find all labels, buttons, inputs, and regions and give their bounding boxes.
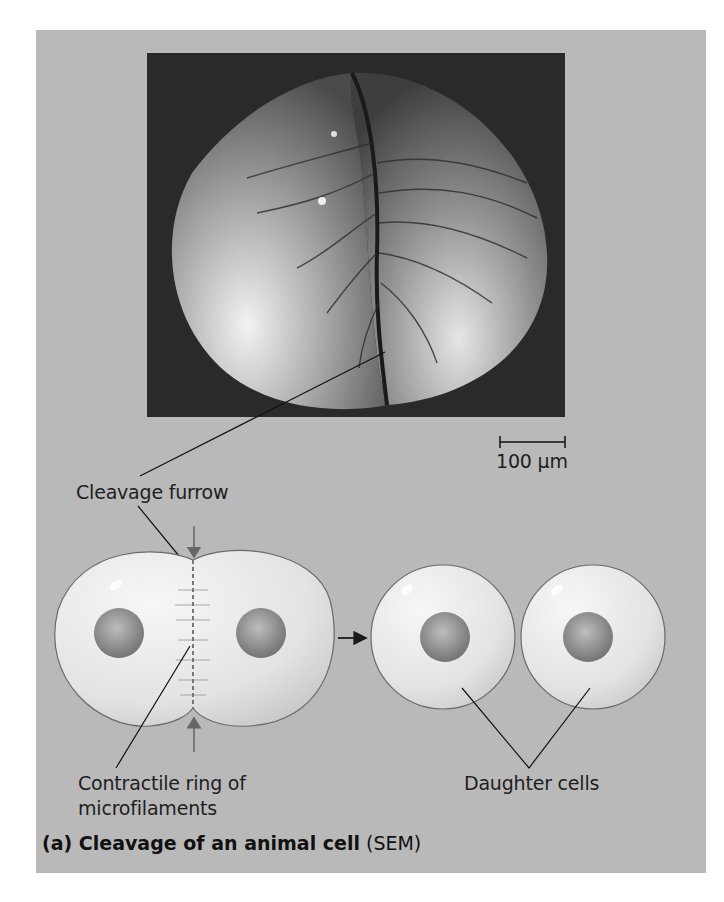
nucleus xyxy=(563,612,613,662)
nucleus-right xyxy=(236,608,286,658)
figure-caption: (a) Cleavage of an animal cell (SEM) xyxy=(42,832,421,854)
leader-line-sem xyxy=(140,352,385,476)
nucleus xyxy=(420,612,470,662)
label-cleavage-furrow: Cleavage furrow xyxy=(76,481,228,504)
label-contractile-ring-line1: Contractile ring of xyxy=(78,772,246,795)
scale-bar xyxy=(500,436,565,448)
scale-bar-label: 100 µm xyxy=(496,450,568,473)
daughter-cell-2 xyxy=(521,565,665,709)
caption-title: (a) Cleavage of an animal cell xyxy=(42,832,360,854)
caption-technique: (SEM) xyxy=(360,832,421,854)
label-daughter-cells: Daughter cells xyxy=(464,772,599,795)
dividing-cell xyxy=(55,550,334,726)
diagram-overlay xyxy=(0,0,724,902)
label-contractile-ring-line2: microfilaments xyxy=(78,797,217,820)
daughter-cell-1 xyxy=(371,565,515,709)
nucleus-left xyxy=(94,608,144,658)
